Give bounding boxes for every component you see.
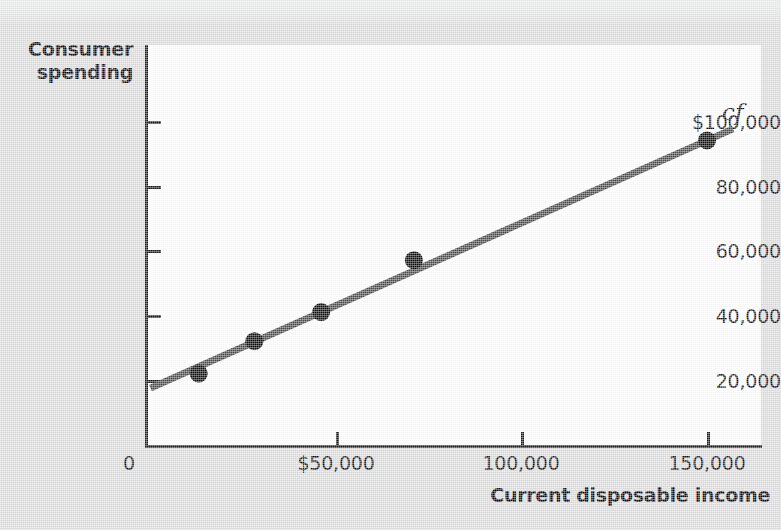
x-tick-mark-50000 — [336, 432, 339, 445]
y-tick-label-80000: 80,000 — [646, 176, 781, 198]
x-tick-mark-100000 — [521, 432, 524, 445]
y-tick-mark-20000 — [148, 380, 161, 383]
y-tick-mark-80000 — [148, 186, 161, 189]
y-axis-line — [145, 45, 148, 448]
y-axis-title: Consumer spending — [0, 38, 133, 84]
x-tick-label-50000: $50,000 — [261, 452, 411, 474]
x-axis-title: Current disposable income — [330, 484, 770, 506]
series-label-cf: cf — [722, 99, 743, 125]
x-tick-label-150000: 150,000 — [632, 452, 781, 474]
y-tick-mark-60000 — [148, 250, 161, 253]
x-axis-line — [145, 445, 762, 448]
y-tick-mark-40000 — [148, 315, 161, 318]
chart-figure: $100,000 80,000 60,000 40,000 20,000 $50… — [0, 0, 781, 530]
x-tick-mark-150000 — [707, 432, 710, 445]
y-tick-label-40000: 40,000 — [646, 305, 781, 327]
y-tick-label-20000: 20,000 — [646, 370, 781, 392]
y-tick-label-60000: 60,000 — [646, 240, 781, 262]
x-tick-label-100000: 100,000 — [446, 452, 596, 474]
y-tick-mark-100000 — [148, 121, 161, 124]
origin-label: 0 — [95, 452, 135, 474]
y-tick-label-100000: $100,000 — [646, 111, 781, 133]
